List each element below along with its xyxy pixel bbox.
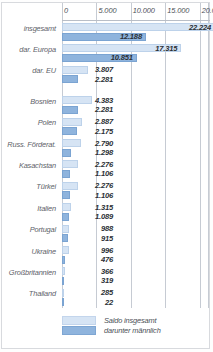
bar-total-6 xyxy=(62,160,78,168)
bar-male-10 xyxy=(62,256,65,264)
axis-tick-label: 0 xyxy=(64,6,68,15)
value-label-total-9: 988 xyxy=(101,224,113,233)
category-label-bosnien: Bosnien xyxy=(30,97,56,106)
category-label-kasachstan: Kasachstan xyxy=(19,161,56,170)
bar-total-12 xyxy=(62,289,64,297)
legend-swatch-male xyxy=(62,326,96,335)
value-label-total-7: 2.276 xyxy=(95,181,113,190)
value-label-male-12: 22 xyxy=(105,298,113,307)
category-label-italien: Italien xyxy=(37,204,56,213)
category-label-column: insgesamtdar. Europadar. EUBosnienPolenR… xyxy=(0,0,60,352)
axis-tick-label: 20.000 xyxy=(202,6,213,15)
value-label-male-10: 476 xyxy=(101,255,113,264)
category-label-polen: Polen xyxy=(38,118,56,127)
value-label-total-6: 2.276 xyxy=(95,160,113,169)
bar-male-12 xyxy=(62,298,64,306)
gridline-20000 xyxy=(200,3,201,308)
category-label-thailand: Thailand xyxy=(29,289,56,298)
value-label-total-5: 2.790 xyxy=(95,139,113,148)
category-label-insgesamt: insgesamt xyxy=(24,24,56,33)
axis-tick-label: 15.000 xyxy=(167,6,189,15)
bar-male-6 xyxy=(62,170,70,178)
category-label-russ-f-rderat: Russ. Förderat. xyxy=(7,140,56,149)
bar-male-7 xyxy=(62,191,70,199)
category-label-t-rkei: Türkei xyxy=(36,182,56,191)
value-label-male-4: 2.175 xyxy=(95,127,113,136)
value-label-total-10: 996 xyxy=(101,246,113,255)
bar-male-5 xyxy=(62,149,71,157)
category-label-gro-britannien: Großbritannien xyxy=(9,268,56,277)
bar-total-7 xyxy=(62,182,78,190)
bar-total-11 xyxy=(62,267,65,275)
legend-label-total: Saldo insgesamt xyxy=(104,316,156,325)
value-label-male-1: 10.851 xyxy=(111,53,133,62)
axis-tick-label: 5.000 xyxy=(98,6,116,15)
bar-total-2 xyxy=(62,66,88,74)
value-label-total-0: 22.224 xyxy=(189,23,211,32)
bar-total-4 xyxy=(62,118,82,126)
value-label-total-12: 285 xyxy=(101,288,113,297)
category-label-ukraine: Ukraine xyxy=(32,247,56,256)
chart-root: insgesamtdar. Europadar. EUBosnienPolenR… xyxy=(0,0,213,352)
value-label-male-2: 2.281 xyxy=(95,75,113,84)
gridline-right-edge xyxy=(208,3,209,308)
bar-male-2 xyxy=(62,75,78,83)
value-label-male-9: 915 xyxy=(101,234,113,243)
bar-male-3 xyxy=(62,106,78,114)
axis-top-rule xyxy=(62,20,210,21)
category-label-dar-europa: dar. Europa xyxy=(19,45,56,54)
category-label-portugal: Portugal xyxy=(30,225,56,234)
bar-total-5 xyxy=(62,139,81,147)
bar-total-10 xyxy=(62,246,69,254)
bar-total-3 xyxy=(62,96,92,104)
value-label-total-3: 4.383 xyxy=(95,96,113,105)
category-label-dar-eu: dar. EU xyxy=(32,66,56,75)
bar-male-4 xyxy=(62,127,77,135)
bar-total-8 xyxy=(62,203,71,211)
legend-label-male: darunter männlich xyxy=(104,326,161,335)
value-label-total-2: 3.807 xyxy=(95,65,113,74)
value-label-male-3: 2.281 xyxy=(95,105,113,114)
bar-male-11 xyxy=(62,277,64,285)
value-label-total-4: 2.887 xyxy=(95,117,113,126)
value-label-male-5: 1.298 xyxy=(95,148,113,157)
bar-total-9 xyxy=(62,225,69,233)
value-label-male-8: 1.089 xyxy=(95,212,113,221)
value-label-total-8: 1.315 xyxy=(95,203,113,212)
value-label-male-11: 319 xyxy=(101,276,113,285)
bar-male-8 xyxy=(62,213,69,221)
bar-male-9 xyxy=(62,234,68,242)
value-label-male-6: 1.106 xyxy=(95,169,113,178)
value-label-male-7: 1.106 xyxy=(95,191,113,200)
legend: Saldo insgesamtdarunter männlich xyxy=(62,316,210,344)
axis-tick-label: 10.000 xyxy=(133,6,155,15)
value-label-total-1: 17.315 xyxy=(155,44,177,53)
value-label-male-0: 12.188 xyxy=(120,32,142,41)
value-label-total-11: 366 xyxy=(101,267,113,276)
legend-swatch-total xyxy=(62,316,96,325)
